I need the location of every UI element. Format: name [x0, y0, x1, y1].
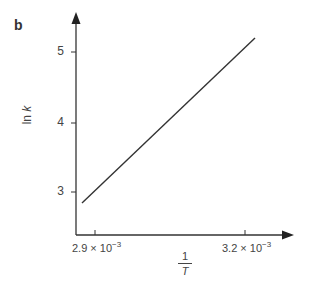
- x-axis-label-denominator: T: [178, 264, 192, 277]
- x-axis-arrow-icon: [282, 231, 294, 240]
- y-tick-label-5: 5: [44, 44, 64, 58]
- x-axis-label: 1 T: [178, 250, 192, 277]
- x-tick-label-3.2e-3: 3.2 × 10−3: [222, 240, 271, 254]
- y-axis-label: ln k: [20, 106, 34, 125]
- x-tick-exponent: −3: [262, 240, 271, 249]
- y-axis-label-text: ln k: [20, 106, 34, 125]
- x-tick-mantissa: 3.2 × 10: [222, 242, 262, 254]
- x-tick-label-2.9e-3: 2.9 × 10−3: [72, 240, 121, 254]
- y-tick-label-4: 4: [44, 115, 64, 129]
- x-axis-label-numerator: 1: [178, 250, 192, 264]
- data-line: [82, 38, 255, 203]
- y-axis-label-variable: k: [20, 106, 34, 112]
- y-tick-label-3: 3: [44, 184, 64, 198]
- x-tick-mantissa: 2.9 × 10: [72, 242, 112, 254]
- y-axis-arrow-icon: [72, 12, 81, 24]
- x-tick-exponent: −3: [112, 240, 121, 249]
